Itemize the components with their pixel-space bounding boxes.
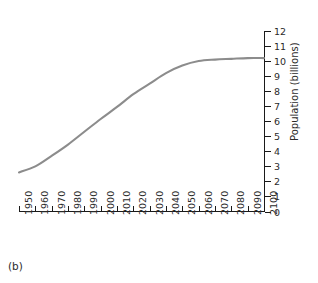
y-tick-label: 2: [274, 177, 280, 187]
x-tick-label: 2100: [269, 191, 279, 215]
y-tick-label: 8: [274, 87, 280, 97]
y-tick-label: 3: [274, 162, 280, 172]
x-tick-label: 1950: [24, 191, 34, 215]
x-tick-label: 2010: [122, 191, 132, 215]
x-tick-label: 1960: [40, 191, 50, 215]
x-tick-label: 2070: [220, 191, 230, 215]
x-tick-label: 2020: [138, 191, 148, 215]
y-tick-label: 7: [274, 102, 280, 112]
y-tick-label: 11: [274, 42, 286, 52]
x-tick-label: 1990: [89, 191, 99, 215]
chart-plot-area: [0, 0, 318, 283]
y-tick-label: 9: [274, 72, 280, 82]
x-tick-label: 2060: [204, 191, 214, 215]
y-tick-label: 10: [274, 57, 286, 67]
x-tick-label: 1980: [73, 191, 83, 215]
y-tick-label: 12: [274, 27, 286, 37]
x-tick-label: 2080: [236, 191, 246, 215]
y-axis-tick-marks: [265, 32, 272, 213]
y-tick-label: 5: [274, 132, 280, 142]
y-axis-title: Population (billions): [290, 42, 300, 141]
x-tick-label: 1970: [57, 191, 67, 215]
y-tick-label: 6: [274, 117, 280, 127]
population-curve: [19, 58, 264, 172]
y-tick-label: 4: [274, 147, 280, 157]
population-projection-figure: 0123456789101112 19501960197019801990200…: [0, 0, 318, 283]
x-tick-label: 2040: [171, 191, 181, 215]
x-tick-label: 2000: [106, 191, 116, 215]
x-tick-label: 2050: [187, 191, 197, 215]
x-tick-label: 2030: [155, 191, 165, 215]
panel-caption: (b): [8, 261, 23, 272]
x-tick-label: 2090: [253, 191, 263, 215]
